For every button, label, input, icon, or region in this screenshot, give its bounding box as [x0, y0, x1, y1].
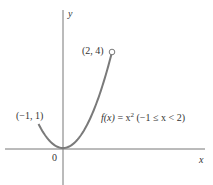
x-axis-label: x [199, 154, 203, 165]
function-name: f(x) [101, 112, 115, 123]
open-endpoint-marker [109, 49, 115, 55]
point-label-right: (2, 4) [82, 45, 104, 56]
point-label-left: (−1, 1) [16, 110, 43, 121]
y-axis-label: y [68, 8, 72, 19]
function-domain: (−1 ≤ x < 2) [137, 112, 185, 123]
function-equals: = x [115, 112, 131, 123]
parabola-curve [39, 52, 113, 148]
function-graph: y x 0 (−1, 1) (2, 4) f(x) = x2 (−1 ≤ x <… [0, 0, 213, 185]
origin-label: 0 [52, 152, 57, 163]
function-label: f(x) = x2 (−1 ≤ x < 2) [101, 111, 185, 123]
function-exponent: 2 [131, 111, 135, 119]
graph-canvas [0, 0, 213, 185]
